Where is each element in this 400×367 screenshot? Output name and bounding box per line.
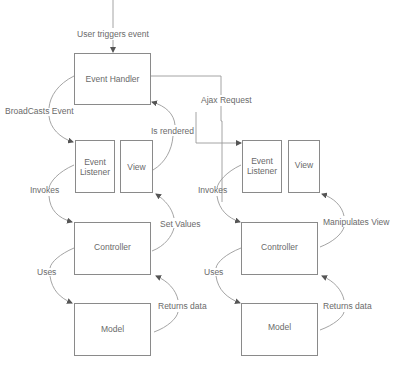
right-model-label: Model (268, 322, 291, 332)
right-event-listener-box: Event Listener (243, 141, 282, 193)
right-view-label: View (295, 160, 314, 170)
left-controller-box: Controller (75, 223, 151, 275)
left-event-listener-box: Event Listener (76, 141, 115, 193)
ajax-label: Ajax Request (201, 95, 252, 105)
trigger-edge: User triggers event (77, 0, 149, 52)
event-handler-label: Event Handler (86, 74, 140, 84)
set-values-edge: Set Values (152, 194, 200, 251)
mvc-diagram: User triggers event Event Handler Ajax R… (0, 0, 400, 367)
right-controller-box: Controller (242, 223, 318, 275)
left-event-listener-line2: Listener (80, 167, 110, 177)
left-uses-edge: Uses (37, 248, 74, 303)
left-returns-edge: Returns data (154, 276, 207, 332)
left-model-label: Model (101, 324, 124, 334)
left-controller-label: Controller (94, 242, 131, 252)
event-handler-box: Event Handler (75, 54, 151, 105)
left-event-listener-line1: Event (84, 157, 106, 167)
left-invokes-edge: Invokes (30, 165, 74, 222)
right-invokes-label: Invokes (198, 185, 227, 195)
left-uses-label: Uses (37, 267, 56, 277)
right-event-listener-line1: Event (251, 156, 273, 166)
right-model-box: Model (242, 304, 318, 356)
left-returns-label: Returns data (158, 301, 207, 311)
right-view-box: View (289, 141, 320, 193)
manipulates-view-edge: Manipulates View (320, 194, 390, 247)
right-returns-label: Returns data (323, 301, 372, 311)
ajax-edge-lower (196, 112, 241, 143)
left-view-box: View (121, 141, 153, 193)
left-view-label: View (127, 162, 146, 172)
right-uses-label: Uses (204, 267, 223, 277)
right-invokes-edge: Invokes (198, 165, 241, 222)
right-uses-edge: Uses (204, 248, 241, 303)
left-model-box: Model (75, 304, 151, 356)
rendered-label: Is rendered (151, 126, 194, 136)
right-returns-edge: Returns data (320, 276, 372, 330)
broadcasts-label: BroadCasts Event (5, 106, 74, 116)
ajax-edge: Ajax Request (151, 76, 252, 202)
left-invokes-label: Invokes (30, 185, 59, 195)
broadcasts-edge: BroadCasts Event (5, 76, 74, 142)
manipulates-view-label: Manipulates View (323, 217, 390, 227)
set-values-label: Set Values (160, 219, 200, 229)
rendered-edge: Is rendered (151, 102, 194, 170)
right-controller-label: Controller (261, 242, 298, 252)
trigger-label: User triggers event (77, 29, 149, 39)
right-event-listener-line2: Listener (247, 166, 277, 176)
